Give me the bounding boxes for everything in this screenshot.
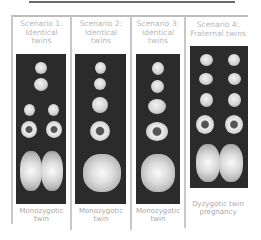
embryo-single — [141, 154, 175, 192]
scenario-2-caption-line2: twin — [72, 215, 130, 223]
embryo-zygote — [35, 62, 47, 74]
embryo-morula — [92, 97, 108, 113]
embryo-morula-a — [24, 104, 35, 116]
embryo-morula — [148, 99, 166, 114]
scenario-1-caption-line2: twin — [13, 215, 70, 223]
scenario-2-header: Scenario 2: Identical twins — [72, 20, 130, 46]
embryo-morula-b — [48, 104, 59, 116]
embryo-blastocyst-a — [21, 121, 37, 138]
embryo-twins-b — [41, 151, 63, 191]
scenario-3-caption: Monozygotic twin — [132, 207, 184, 223]
embryo-zygote — [152, 62, 164, 75]
scenario-3-caption-line2: twin — [132, 215, 184, 223]
embryo-2cell — [151, 80, 164, 93]
scenario-3-header-line3: twins — [132, 37, 184, 46]
embryo-morula-b — [228, 93, 241, 107]
embryo-2cell — [34, 78, 48, 91]
embryo-zygote-a — [200, 54, 213, 66]
embryo-twins-a — [20, 151, 42, 191]
embryo-2cell-a — [199, 73, 213, 85]
scenario-4-image — [190, 46, 248, 188]
embryo-twins-a — [196, 144, 220, 182]
embryo-2cell-b — [228, 73, 241, 85]
divider-3 — [130, 16, 132, 230]
embryo-single — [83, 154, 121, 192]
embryo-blastocyst-b — [225, 115, 243, 134]
scenario-2-caption: Monozygotic twin — [72, 207, 130, 223]
embryo-blastocyst-a — [196, 115, 214, 134]
scenario-2-image — [75, 54, 126, 204]
scenario-4-header-line2: Fraternal twins — [186, 30, 250, 39]
scenario-1-caption: Monozygotic twin — [13, 207, 70, 223]
scenario-2-caption-line1: Monozygotic — [72, 207, 130, 215]
scenario-1-header-line3: twins — [13, 37, 70, 46]
scenario-4-caption-line2: pregnancy — [186, 208, 250, 216]
scenario-3-image — [136, 54, 180, 204]
divider-1 — [11, 16, 13, 224]
scenario-4-caption: Dyzygotic twin pregnancy — [186, 200, 250, 216]
divider-2 — [70, 16, 72, 230]
embryo-zygote — [95, 62, 106, 74]
scenario-2-header-line3: twins — [72, 37, 130, 46]
scenario-3-caption-line1: Monozygotic — [132, 207, 184, 215]
scenario-4-caption-line1: Dyzygotic twin — [186, 200, 250, 208]
embryo-twins-b — [219, 144, 243, 182]
divider-4 — [184, 16, 186, 228]
title-underline — [29, 1, 235, 3]
scenario-1-caption-line1: Monozygotic — [13, 207, 70, 215]
embryo-blastocyst — [146, 122, 168, 141]
embryo-2cell — [94, 78, 106, 90]
embryo-zygote-b — [228, 54, 240, 66]
scenario-4-header: Scenario 4: Fraternal twins — [186, 21, 250, 38]
embryo-morula-a — [200, 93, 213, 107]
scenario-1-header: Scenario 1: Identical twins — [13, 20, 70, 46]
scenario-1-image — [16, 54, 66, 204]
scenario-3-header: Scenario 3: Identical twins — [132, 20, 184, 46]
embryo-blastocyst — [90, 121, 110, 141]
embryo-blastocyst-b — [46, 121, 62, 138]
